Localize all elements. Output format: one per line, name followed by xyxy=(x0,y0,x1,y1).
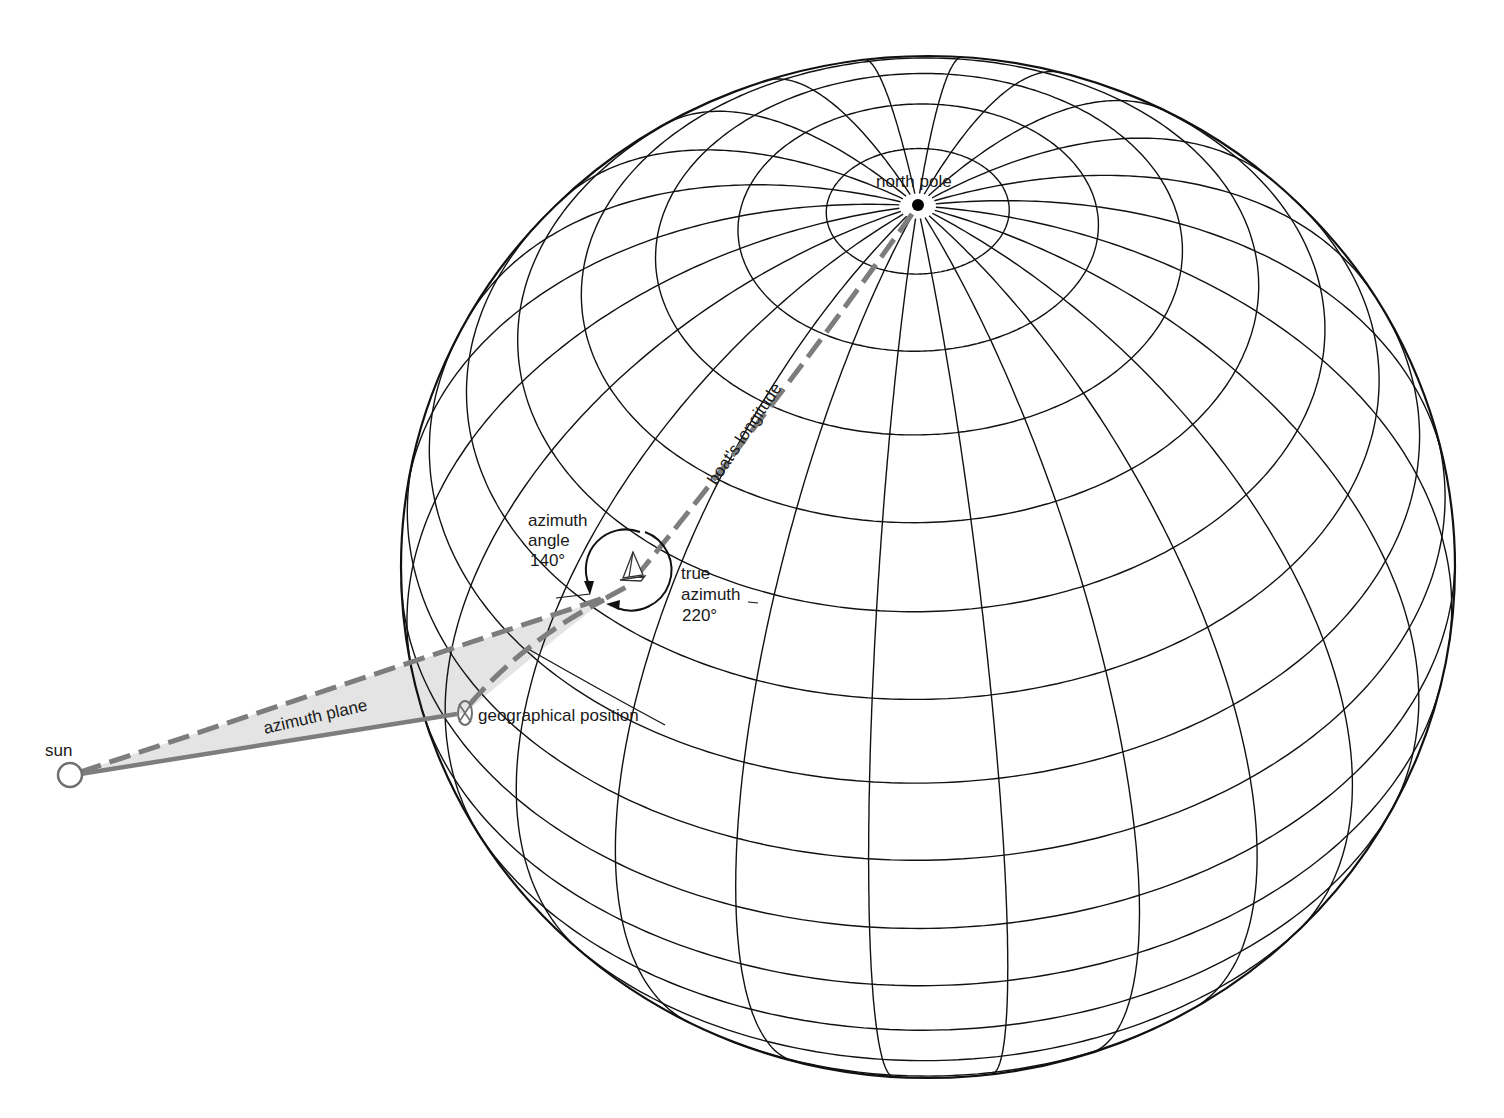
true-azimuth-arrowhead xyxy=(606,600,620,610)
boat-short-dash xyxy=(606,586,628,598)
azimuth-angle-leader xyxy=(556,594,590,598)
true-azimuth-label-line2: azimuth xyxy=(681,585,741,604)
sun-icon xyxy=(58,763,82,787)
north-pole-label: north pole xyxy=(876,172,952,191)
azimuth-angle-value: 140° xyxy=(530,551,565,570)
true-azimuth-leader xyxy=(748,602,758,603)
true-azimuth-value: 220° xyxy=(682,606,717,625)
true-azimuth-label-line1: true xyxy=(681,564,710,583)
north-pole-marker xyxy=(912,199,924,211)
sun-label: sun xyxy=(45,741,72,760)
azimuth-angle-label-line1: azimuth xyxy=(528,511,588,530)
sun-to-boat-dashed-line xyxy=(80,598,604,772)
azimuth-angle-arrowhead xyxy=(584,581,594,595)
azimuth-angle-label-line2: angle xyxy=(528,531,570,550)
diagram-canvas: north pole boat's longitude azimuth angl… xyxy=(0,0,1504,1118)
geographical-position-label: geographical position xyxy=(478,706,639,725)
boats-longitude-label: boat's longitude xyxy=(704,379,786,488)
